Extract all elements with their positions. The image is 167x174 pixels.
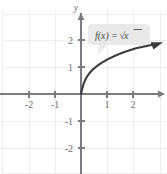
graph-canvas: -2 -1 1 2 2 1 -1 -2 y f(x) = √x (0, 0, 167, 174)
callout-eq: = (109, 30, 120, 41)
y-axis-label: y (73, 2, 79, 13)
x-tick-label--2: -2 (25, 99, 33, 110)
svg-text:f(x) = √x: f(x) = √x (95, 30, 129, 42)
x-tick-label-2: 2 (131, 99, 136, 110)
callout-arg: (x) (98, 30, 110, 42)
y-tick-label--1: -1 (65, 116, 73, 127)
y-tick-label-2: 2 (68, 35, 73, 46)
callout-radicand: x (123, 30, 129, 41)
function-graph-figure: -2 -1 1 2 2 1 -1 -2 y f(x) = √x (0, 0, 167, 174)
x-tick-label-1: 1 (105, 99, 110, 110)
x-axis-arrowhead (158, 91, 165, 98)
y-tick-label--2: -2 (65, 143, 73, 154)
x-tick-label--1: -1 (51, 99, 59, 110)
curve-arrowhead (151, 42, 164, 49)
y-tick-label-1: 1 (68, 62, 73, 73)
sqrt-curve (81, 44, 156, 94)
callout-tail (97, 44, 108, 56)
